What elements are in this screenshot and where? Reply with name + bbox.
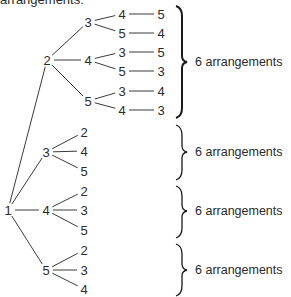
tree-edge: [12, 216, 43, 264]
tree-node-level3: 2: [80, 244, 87, 257]
tree-edge: [95, 103, 115, 108]
tree-edge: [10, 67, 45, 203]
tree-node-level3: 5: [80, 165, 87, 178]
brace-icon: [176, 6, 187, 118]
tree-node-level2: 4: [42, 204, 49, 217]
tree-node-level3: 3: [80, 264, 87, 277]
group-count-label: 6 arrangements: [195, 146, 283, 159]
tree-node-level3: 5: [84, 95, 91, 108]
tree-node-level4: 3: [118, 46, 125, 59]
brace-icon: [176, 186, 187, 238]
group-count-label: 6 arrangements: [195, 56, 283, 69]
tree-node-level4: 5: [118, 27, 125, 40]
brace-icon: [176, 125, 187, 180]
tree-node-root: 1: [4, 204, 11, 217]
tree-edge: [52, 273, 77, 286]
tree-node-level5: 3: [157, 65, 164, 78]
tree-node-level3: 2: [80, 126, 87, 139]
tree-node-level5: 3: [157, 104, 164, 117]
tree-node-level3: 5: [80, 224, 87, 237]
tree-node-level5: 4: [157, 85, 164, 98]
tree-edge: [95, 54, 115, 59]
tree-node-level3: 3: [84, 16, 91, 29]
tree-edge: [52, 253, 78, 266]
tree-edge: [53, 151, 77, 152]
tree-node-level2: 5: [42, 264, 49, 277]
tree-edge: [95, 24, 116, 31]
tree-edge: [52, 213, 78, 226]
tree-node-level2: 3: [42, 146, 49, 159]
tree-diagram: arrangements: 12345345245235234453534545…: [0, 0, 291, 297]
tree-edge: [52, 194, 77, 207]
tree-node-level5: 5: [157, 46, 164, 59]
tree-node-level2: 2: [43, 54, 50, 67]
tree-node-level4: 4: [118, 8, 125, 21]
tree-edge: [52, 65, 83, 96]
tree-node-level5: 4: [157, 27, 164, 40]
tree-node-level3: 2: [80, 185, 87, 198]
brace-icon: [176, 244, 187, 296]
tree-node-level3: 4: [84, 54, 91, 67]
tree-edge: [12, 158, 42, 204]
tree-node-level3: 3: [80, 204, 87, 217]
tree-edge: [52, 27, 83, 55]
tree-node-level4: 5: [118, 65, 125, 78]
tree-edge: [95, 62, 116, 69]
tree-edge: [52, 155, 77, 168]
tree-node-level3: 4: [80, 145, 87, 158]
tree-edge: [95, 93, 116, 99]
group-count-label: 6 arrangements: [195, 205, 283, 218]
tree-node-level4: 3: [118, 85, 125, 98]
tree-edge: [52, 135, 78, 148]
tree-node-level4: 4: [118, 104, 125, 117]
tree-node-level5: 5: [157, 8, 164, 21]
tree-edge: [95, 16, 115, 21]
tree-node-level3: 4: [80, 283, 87, 296]
group-count-label: 6 arrangements: [195, 264, 283, 277]
